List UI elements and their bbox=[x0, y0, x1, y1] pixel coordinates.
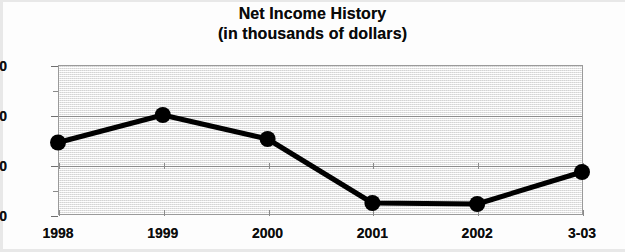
data-point-3-03 bbox=[574, 164, 590, 180]
data-point-1999 bbox=[155, 107, 171, 123]
data-series-layer bbox=[0, 0, 625, 252]
data-point-2002 bbox=[469, 196, 485, 212]
net-income-line bbox=[58, 115, 582, 204]
data-point-2000 bbox=[260, 131, 276, 147]
data-point-2001 bbox=[364, 195, 380, 211]
data-point-1998 bbox=[50, 135, 66, 151]
net-income-history-chart: Net Income History (in thousands of doll… bbox=[0, 0, 625, 252]
